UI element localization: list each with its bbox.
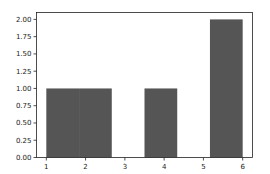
y-tick-label: 1.75 (16, 33, 32, 41)
histogram-chart: 123456 0.000.250.500.751.001.251.501.752… (0, 0, 270, 174)
histogram-bar (210, 19, 243, 157)
x-tick-label: 6 (240, 163, 245, 171)
histogram-bar (46, 88, 79, 157)
y-tick-label: 0.50 (16, 119, 32, 127)
histogram-bar (79, 88, 112, 157)
x-tick-label: 1 (44, 163, 48, 171)
x-tick-label: 2 (83, 163, 87, 171)
histogram-bar (145, 88, 178, 157)
y-tick-label: 0.00 (16, 154, 32, 162)
y-tick-label: 2.00 (16, 16, 32, 24)
x-tick-label: 3 (123, 163, 127, 171)
y-tick-label: 1.25 (16, 68, 32, 76)
bars-group (46, 19, 242, 157)
y-axis-ticks: 0.000.250.500.751.001.251.501.752.00 (16, 16, 37, 162)
y-tick-label: 0.25 (16, 137, 32, 145)
y-tick-label: 1.00 (16, 85, 32, 93)
x-tick-label: 5 (201, 163, 205, 171)
x-tick-label: 4 (162, 163, 167, 171)
y-tick-label: 1.50 (16, 50, 32, 58)
y-tick-label: 0.75 (16, 102, 32, 110)
x-axis-ticks: 123456 (44, 158, 245, 171)
